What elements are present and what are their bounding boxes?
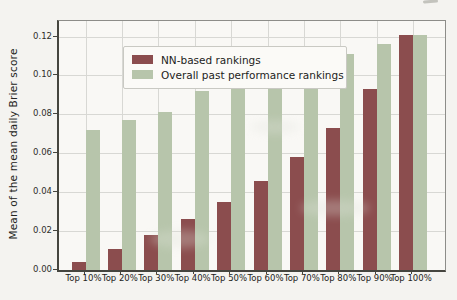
x-tick-mark bbox=[193, 271, 194, 274]
y-tick-mark bbox=[53, 152, 57, 153]
figure-bar-chart: Mean of the mean daily Brier score NN-ba… bbox=[0, 0, 457, 300]
legend-swatch-nn bbox=[132, 55, 153, 64]
y-tick-label: 0.06 bbox=[26, 148, 52, 156]
y-tick-mark bbox=[53, 191, 57, 192]
x-tick-mark bbox=[229, 271, 230, 274]
y-tick-label: 0.12 bbox=[26, 32, 52, 40]
bar-overall-past bbox=[377, 44, 391, 270]
y-tick-mark bbox=[53, 269, 57, 270]
page-artifact bbox=[423, 0, 438, 4]
y-tick-mark bbox=[53, 36, 57, 37]
legend-row-nn: NN-based rankings bbox=[132, 52, 338, 67]
y-tick-label: 0.04 bbox=[26, 187, 52, 195]
bar-overall-past bbox=[122, 120, 136, 270]
y-tick-label: 0.10 bbox=[26, 70, 52, 78]
bar-nn-based bbox=[290, 157, 304, 270]
bar-overall-past bbox=[268, 72, 282, 270]
y-tick-label: 0.02 bbox=[26, 226, 52, 234]
y-tick-label: 0.08 bbox=[26, 109, 52, 117]
legend-swatch-overall bbox=[132, 70, 153, 79]
bar-overall-past bbox=[86, 130, 100, 270]
y-axis-label: Mean of the mean daily Brier score bbox=[7, 29, 19, 259]
bar-nn-based bbox=[326, 128, 340, 270]
x-tick-mark bbox=[266, 271, 267, 274]
bar-nn-based bbox=[399, 35, 413, 270]
bar-overall-past bbox=[158, 112, 172, 270]
bar-overall-past bbox=[304, 62, 318, 270]
legend: NN-based rankings Overall past performan… bbox=[123, 46, 347, 89]
bar-nn-based bbox=[254, 181, 268, 270]
y-tick-mark bbox=[53, 230, 57, 231]
bar-nn-based bbox=[108, 249, 122, 270]
legend-label-overall: Overall past performance rankings bbox=[161, 69, 344, 81]
x-tick-mark bbox=[338, 271, 339, 274]
y-tick-mark bbox=[53, 74, 57, 75]
y-tick-label: 0.00 bbox=[26, 265, 52, 273]
legend-label-nn: NN-based rankings bbox=[161, 54, 261, 66]
bar-overall-past bbox=[195, 91, 209, 270]
bar-nn-based bbox=[181, 219, 195, 270]
x-tick-mark bbox=[84, 271, 85, 274]
y-tick-mark bbox=[53, 113, 57, 114]
x-tick-label: Top 100% bbox=[389, 273, 433, 283]
x-tick-mark bbox=[156, 271, 157, 274]
bar-nn-based bbox=[144, 235, 158, 270]
bar-nn-based bbox=[363, 89, 377, 270]
x-tick-mark bbox=[375, 271, 376, 274]
x-tick-mark bbox=[120, 271, 121, 274]
bar-overall-past bbox=[231, 81, 245, 270]
x-tick-mark bbox=[302, 271, 303, 274]
plot-area: NN-based rankings Overall past performan… bbox=[57, 20, 446, 272]
x-tick-mark bbox=[411, 271, 412, 274]
bar-overall-past bbox=[413, 35, 427, 270]
gridline-horizontal bbox=[59, 37, 445, 38]
bar-nn-based bbox=[217, 202, 231, 270]
bar-nn-based bbox=[72, 262, 86, 270]
legend-row-overall: Overall past performance rankings bbox=[132, 67, 338, 82]
